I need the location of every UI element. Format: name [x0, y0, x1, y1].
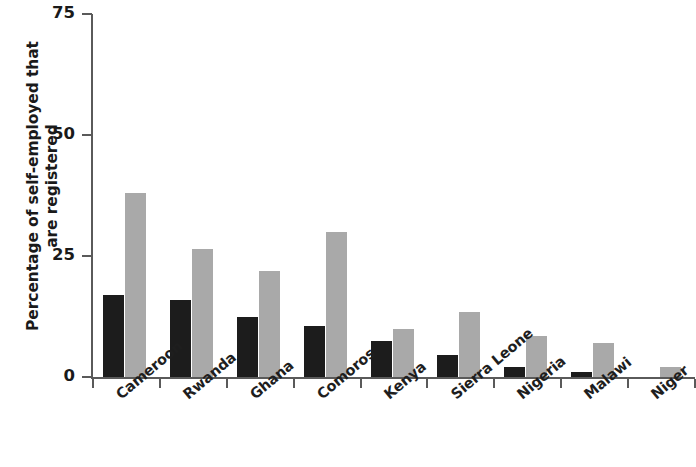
y-axis-tick: 75	[82, 13, 92, 15]
y-axis-tick: 50	[82, 134, 92, 136]
bar-group	[160, 14, 227, 377]
bar	[304, 326, 325, 377]
y-axis-tick-label: 75	[52, 3, 82, 23]
bar-group	[561, 14, 628, 377]
bar	[192, 249, 213, 377]
bar-group	[227, 14, 294, 377]
bar-group	[628, 14, 695, 377]
y-axis-title-line-1: Percentage of self-employed that	[24, 41, 43, 331]
y-axis-tick: 0	[82, 376, 92, 378]
bar	[571, 372, 592, 377]
x-axis-tick	[493, 379, 495, 388]
y-axis-tick-label: 50	[52, 124, 82, 144]
x-axis-tick	[159, 379, 161, 388]
plot-area	[93, 14, 695, 377]
y-axis-tick-label: 25	[52, 245, 82, 265]
bar-group	[93, 14, 160, 377]
y-axis-tick: 25	[82, 255, 92, 257]
y-axis-title: Percentage of self-employed that are reg…	[20, 21, 66, 351]
bar-group	[294, 14, 361, 377]
x-axis-tick	[92, 379, 94, 388]
bar	[326, 232, 347, 377]
x-axis-tick	[226, 379, 228, 388]
bar	[125, 193, 146, 377]
y-axis-tick-label: 0	[64, 366, 82, 386]
bar	[237, 317, 258, 378]
bar-group	[494, 14, 561, 377]
x-axis-tick	[360, 379, 362, 388]
x-axis-tick	[426, 379, 428, 388]
bar	[259, 271, 280, 377]
bar	[437, 355, 458, 377]
bar	[103, 295, 124, 377]
bar-group	[361, 14, 428, 377]
x-axis-tick	[627, 379, 629, 388]
x-axis-tick	[293, 379, 295, 388]
bar-chart: Percentage of self-employed that are reg…	[0, 0, 696, 467]
bar-group	[427, 14, 494, 377]
bar	[504, 367, 525, 377]
x-axis-tick	[560, 379, 562, 388]
